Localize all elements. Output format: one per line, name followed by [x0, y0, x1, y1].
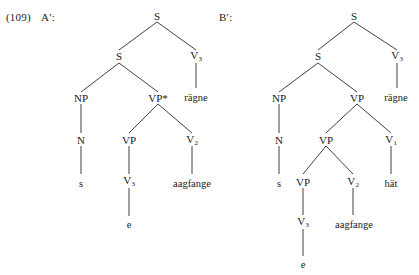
edge-a-vpstar-v2 [158, 104, 192, 133]
node-a-v3-under-vp-subscript: 3 [132, 180, 136, 188]
edge-a-inners-vpstar [119, 63, 158, 92]
node-b-v2: V2 [347, 176, 358, 189]
node-b-v1-subscript: 1 [394, 139, 398, 147]
node-a-v2-subscript: 2 [195, 139, 199, 147]
node-b-root-s: S [351, 11, 357, 22]
node-b-vp-mid: VP [319, 135, 333, 146]
edge-a-vpstar-vp [129, 104, 158, 133]
edge-b-vpouter-vpmid [326, 104, 357, 133]
terminal-b-e: e [301, 259, 306, 270]
node-a-v2-letter: V [186, 133, 194, 145]
terminal-b-hat: hät [385, 178, 398, 189]
terminal-b-s: s [277, 178, 281, 189]
example-number: (109) [6, 11, 31, 23]
edge-b-inners-vpouter [318, 63, 357, 92]
edge-b-roots-v3top [354, 22, 397, 50]
node-a-vp-star: VP* [148, 93, 168, 104]
syntax-tree-figure: (109) A′: B′: S S V3 rägne NP N s VP* VP… [0, 0, 419, 275]
node-a-root-s: S [154, 11, 160, 22]
node-b-v2-letter: V [347, 175, 355, 187]
node-b-inner-s: S [315, 51, 321, 62]
node-b-v3-top: V3 [391, 50, 402, 63]
edge-b-roots-inners [318, 22, 354, 50]
edge-b-vpouter-v1 [357, 104, 391, 133]
node-a-v2: V2 [186, 134, 197, 147]
terminal-b-aagfange: aagfange [335, 219, 373, 230]
node-b-v1: V1 [385, 134, 396, 147]
node-b-v3-top-subscript: 3 [400, 55, 404, 63]
terminal-a-s: s [79, 178, 83, 189]
tree-a-label: A′: [41, 11, 55, 23]
node-a-v3-under-vp-letter: V [123, 174, 131, 186]
edge-a-roots-v3top [157, 22, 196, 50]
node-a-n: N [77, 135, 85, 146]
terminal-b-ragne: rägne [384, 92, 407, 103]
tree-edge-layer [0, 0, 419, 275]
node-a-np: NP [74, 93, 88, 104]
node-a-inner-s: S [116, 51, 122, 62]
edge-a-roots-inners [119, 22, 157, 50]
node-b-v3-deep-subscript: 3 [306, 221, 310, 229]
edge-b-vpmid-v2 [326, 146, 353, 174]
node-b-vp-inner: VP [296, 177, 310, 188]
edge-a-inners-np [81, 63, 119, 92]
terminal-a-e: e [127, 219, 132, 230]
node-b-v3-top-letter: V [391, 49, 399, 61]
node-a-v3-under-vp: V3 [123, 175, 134, 188]
node-b-n: N [275, 135, 283, 146]
node-a-v3-top-subscript: 3 [199, 55, 203, 63]
node-b-np: NP [272, 93, 286, 104]
node-b-v3-deep: V3 [297, 216, 308, 229]
node-b-v2-subscript: 2 [356, 181, 360, 189]
terminal-a-aagfange: aagfange [173, 178, 211, 189]
node-a-vp-inner: VP [122, 135, 136, 146]
node-a-v3-top: V3 [190, 50, 201, 63]
edge-b-vpmid-vpinner [303, 146, 326, 174]
tree-b-label: B′: [219, 11, 232, 23]
node-a-v3-top-letter: V [190, 49, 198, 61]
edge-b-inners-np [279, 63, 318, 92]
terminal-a-ragne: rägne [184, 92, 207, 103]
node-b-v1-letter: V [385, 133, 393, 145]
node-b-v3-deep-letter: V [297, 215, 305, 227]
node-b-vp-outer: VP [350, 93, 364, 104]
